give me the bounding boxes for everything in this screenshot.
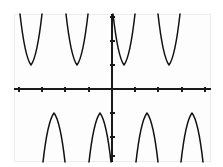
graph-canvas [0, 0, 223, 167]
graph-screenshot: Graph of a secant-type trigonometric fun… [0, 0, 223, 167]
plot-area [0, 0, 223, 167]
